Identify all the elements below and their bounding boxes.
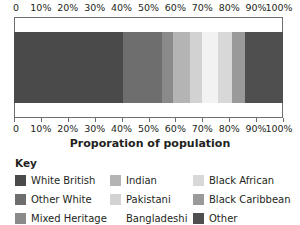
bar-segment-other <box>245 32 283 103</box>
x-tick-label-20: 20% <box>57 123 78 135</box>
legend-label: Bangladeshi <box>126 213 187 225</box>
legend-swatch-icon <box>110 175 121 186</box>
legend-row: Mixed HeritageBangladeshiOther <box>15 209 293 225</box>
x-tick-label-90: 90% <box>246 123 267 135</box>
legend-item-bangladeshi[interactable]: Bangladeshi <box>110 209 193 225</box>
legend-label: Other <box>209 213 237 225</box>
legend-item-pakistani[interactable]: Pakistani <box>110 190 193 209</box>
bar-segment-bangladeshi <box>202 32 218 103</box>
legend-label: Black Caribbean <box>209 194 291 206</box>
x-axis-title: Proporation of population <box>0 137 300 150</box>
legend-swatch-icon <box>110 213 121 224</box>
key-title: Key <box>15 157 37 169</box>
legend-item-black-african[interactable]: Black African <box>193 171 293 190</box>
x-tick-label-10: 10% <box>30 2 51 14</box>
x-tick-label-70: 70% <box>192 2 213 14</box>
legend-label: White British <box>31 175 95 187</box>
legend-item-mixed-heritage[interactable]: Mixed Heritage <box>15 209 110 225</box>
legend-row: Other WhitePakistaniBlack Caribbean <box>15 190 293 209</box>
legend-label: Other White <box>31 194 92 206</box>
tickmark-10 <box>41 118 42 122</box>
x-tick-label-90: 90% <box>246 2 267 14</box>
x-axis-bottom-ticks: 010%20%30%40%50%60%70%80%90%100% <box>0 123 300 137</box>
tickmark-0 <box>14 118 15 122</box>
x-tick-label-60: 60% <box>165 123 186 135</box>
tickmark-90 <box>256 118 257 122</box>
legend-swatch-icon <box>15 175 26 186</box>
x-tick-label-0: 0 <box>13 2 19 14</box>
bar-segment-other-white <box>123 32 162 103</box>
legend-item-black-caribbean[interactable]: Black Caribbean <box>193 190 293 209</box>
legend-label: Mixed Heritage <box>31 213 107 225</box>
x-tick-label-30: 30% <box>84 123 105 135</box>
x-tick-label-100: 100% <box>265 123 292 135</box>
legend-swatch-icon <box>193 194 204 205</box>
legend-label: Pakistani <box>126 194 171 206</box>
x-tick-label-40: 40% <box>111 2 132 14</box>
bar-segment-black-african <box>218 32 231 103</box>
x-tick-label-40: 40% <box>111 123 132 135</box>
tickmark-30 <box>95 118 96 122</box>
tickmark-50 <box>149 118 150 122</box>
tickmark-20 <box>68 118 69 122</box>
legend-item-white-british[interactable]: White British <box>15 171 110 190</box>
x-tick-label-10: 10% <box>30 123 51 135</box>
x-tick-label-70: 70% <box>192 123 213 135</box>
x-tick-label-60: 60% <box>165 2 186 14</box>
legend-item-indian[interactable]: Indian <box>110 171 193 190</box>
legend-label: Black African <box>209 175 274 187</box>
legend-item-other-white[interactable]: Other White <box>15 190 110 209</box>
legend-label: Indian <box>126 175 157 187</box>
x-tick-label-50: 50% <box>138 123 159 135</box>
tickmark-80 <box>229 118 230 122</box>
bar-segment-mixed-heritage <box>162 32 173 103</box>
bar-segment-black-caribbean <box>232 32 245 103</box>
legend-swatch-icon <box>110 194 121 205</box>
tickmark-70 <box>202 118 203 122</box>
x-tick-label-50: 50% <box>138 2 159 14</box>
bar-segment-pakistani <box>190 32 202 103</box>
tickmark-40 <box>122 118 123 122</box>
legend-swatch-icon <box>15 213 26 224</box>
bar-segment-white-british <box>14 32 123 103</box>
x-tick-label-20: 20% <box>57 2 78 14</box>
legend-swatch-icon <box>15 194 26 205</box>
x-tick-label-100: 100% <box>265 2 292 14</box>
x-tick-label-30: 30% <box>84 2 105 14</box>
x-tick-label-0: 0 <box>13 123 19 135</box>
legend-swatch-icon <box>193 213 204 224</box>
tickmark-60 <box>175 118 176 122</box>
legend: White BritishIndianBlack AfricanOther Wh… <box>15 171 293 225</box>
legend-swatch-icon <box>193 175 204 186</box>
tickmark-100 <box>283 118 284 122</box>
legend-row: White BritishIndianBlack African <box>15 171 293 190</box>
x-axis-top-ticks: 010%20%30%40%50%60%70%80%90%100% <box>0 2 300 16</box>
x-tick-label-80: 80% <box>219 123 240 135</box>
x-tick-label-80: 80% <box>219 2 240 14</box>
stacked-bar-chart: 010%20%30%40%50%60%70%80%90%100% 010%20%… <box>0 0 300 225</box>
bar-segment-indian <box>173 32 190 103</box>
legend-item-other[interactable]: Other <box>193 209 293 225</box>
stacked-bar <box>14 32 283 103</box>
